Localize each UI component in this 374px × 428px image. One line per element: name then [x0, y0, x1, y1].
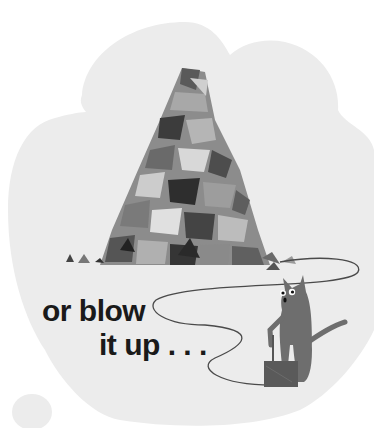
caption-line-2: it up . . .: [99, 330, 207, 360]
illustration: [0, 0, 374, 428]
book-page: or blow it up . . .: [0, 0, 374, 428]
caption-line-1: or blow: [42, 296, 145, 326]
